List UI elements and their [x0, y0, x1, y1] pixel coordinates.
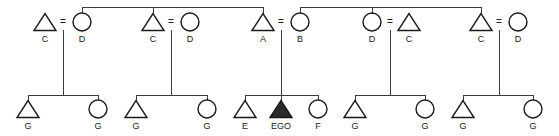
sibship-3-child-e-0	[234, 101, 256, 118]
couple-3-left-triangle	[252, 14, 274, 31]
sibship-1-child-g-1-label: G	[94, 121, 101, 131]
sibship-2-child-g-0-label: G	[132, 121, 139, 131]
couple-2-left-triangle-label: C	[150, 34, 157, 44]
sibship-1-child-g-0-label: G	[24, 121, 31, 131]
couple-3-right-circle-label: B	[297, 34, 303, 44]
couple-1-left-triangle	[34, 14, 56, 31]
sibship-1-child-g-1	[89, 100, 107, 118]
couple-4-left-circle-label: D	[369, 34, 376, 44]
sibship-5-child-g-0	[452, 101, 474, 118]
sibship-4-child-g-1-label: G	[421, 121, 428, 131]
sibship-4-child-g-0	[344, 101, 366, 118]
sibship-4-child-g-0-label: G	[351, 121, 358, 131]
sibship-3-child-f-2-label: F	[315, 121, 321, 131]
couple-2-left-triangle	[142, 14, 164, 31]
sibship-5-child-g-1	[524, 100, 542, 118]
couple-5-mate-symbol: =	[496, 16, 502, 27]
couple-4-right-triangle-label: C	[406, 34, 413, 44]
couple-4-right-triangle	[398, 14, 420, 31]
couple-3-right-circle	[291, 13, 309, 31]
couple-1-right-circle	[73, 13, 91, 31]
couple-2-right-circle	[181, 13, 199, 31]
sibship-3-child-f-2	[309, 100, 327, 118]
couple-2-mate-symbol: =	[168, 16, 174, 27]
sibship-1-child-g-0	[17, 101, 39, 118]
sibship-3-child-ego-1	[270, 101, 292, 118]
pedigree-canvas: CD=CD=AB=DC=CD=GGGGEEGOFGGGG	[0, 0, 559, 136]
sibship-5-child-g-0-label: G	[459, 121, 466, 131]
sibship-2-child-g-1	[198, 100, 216, 118]
sibship-5-child-g-1-label: G	[529, 121, 536, 131]
individual-symbols	[17, 13, 542, 118]
couple-1-right-circle-label: D	[79, 34, 86, 44]
sibship-2-child-g-1-label: G	[203, 121, 210, 131]
sibship-4-child-g-1	[416, 100, 434, 118]
couple-2-right-circle-label: D	[187, 34, 194, 44]
couple-5-right-circle	[509, 13, 527, 31]
couple-5-left-triangle	[470, 14, 492, 31]
couple-4-mate-symbol: =	[387, 16, 393, 27]
pedigree-diagram: CD=CD=AB=DC=CD=GGGGEEGOFGGGG	[0, 0, 559, 136]
sibship-2-child-g-0	[125, 101, 147, 118]
sibship-3-child-ego-1-label: EGO	[271, 121, 291, 131]
couple-5-right-circle-label: D	[515, 34, 522, 44]
couple-1-left-triangle-label: C	[42, 34, 49, 44]
couple-5-left-triangle-label: C	[478, 34, 485, 44]
couple-1-mate-symbol: =	[60, 16, 66, 27]
couple-3-left-triangle-label: A	[260, 34, 266, 44]
sibship-3-child-e-0-label: E	[242, 121, 248, 131]
couple-3-mate-symbol: =	[278, 16, 284, 27]
couple-4-left-circle	[363, 13, 381, 31]
